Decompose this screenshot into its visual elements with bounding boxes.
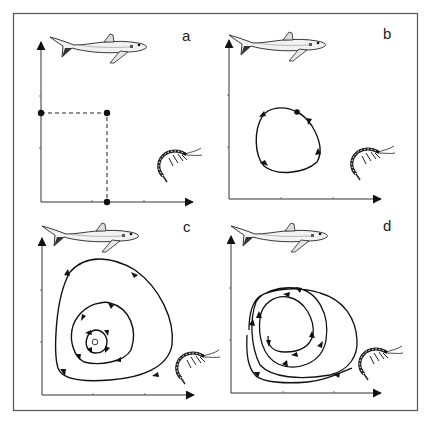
panel-a xyxy=(38,34,202,205)
diverging-spiral xyxy=(247,288,357,383)
panel-d xyxy=(229,223,403,393)
equilibrium-projection xyxy=(41,113,107,202)
panel-c xyxy=(40,223,220,395)
converging-spiral xyxy=(56,259,173,381)
shark-icon xyxy=(42,223,139,252)
shark-icon xyxy=(231,223,328,252)
panel-label-b: b xyxy=(383,25,391,42)
shrimp-icon xyxy=(352,146,395,180)
panel-b xyxy=(227,32,395,199)
shark-icon xyxy=(229,32,326,61)
shrimp-icon xyxy=(360,346,403,380)
shrimp-icon xyxy=(177,350,220,384)
panel-label-a: a xyxy=(182,27,190,44)
shrimp-icon xyxy=(159,148,202,182)
panel-label-d: d xyxy=(383,217,391,234)
equilibrium-dot xyxy=(38,110,44,116)
equilibrium-point xyxy=(92,339,98,345)
phase-plane-figure xyxy=(0,0,428,423)
shark-icon xyxy=(50,34,147,63)
panel-label-c: c xyxy=(183,218,191,235)
